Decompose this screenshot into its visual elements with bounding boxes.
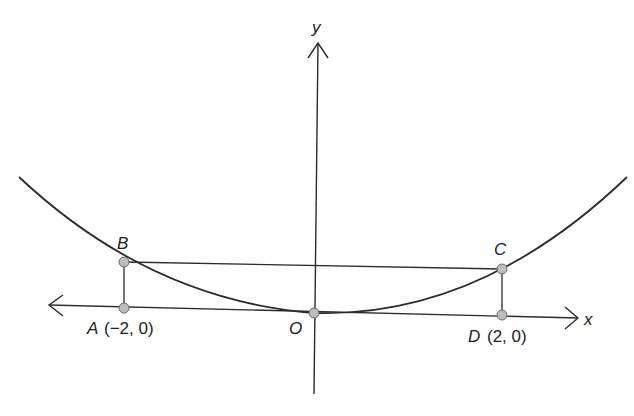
parabola-curve [19, 177, 627, 313]
segment-bc [124, 262, 502, 269]
parabola-diagram: y x O B C A (−2, 0) D (2, 0) [0, 0, 634, 416]
point-d [497, 310, 507, 320]
point-b [119, 257, 129, 267]
point-a [119, 303, 129, 313]
point-o [309, 308, 319, 318]
point-b-label: B [117, 234, 128, 253]
y-axis-label: y [311, 18, 322, 37]
point-a-label: A [86, 319, 98, 338]
point-d-coords: (2, 0) [487, 327, 527, 346]
origin-label: O [289, 319, 302, 338]
y-axis [308, 43, 328, 394]
x-axis-label: x [583, 310, 593, 329]
point-a-coords: (−2, 0) [104, 319, 154, 338]
point-c-label: C [494, 240, 507, 259]
point-c [497, 264, 507, 274]
point-d-label: D [468, 327, 480, 346]
